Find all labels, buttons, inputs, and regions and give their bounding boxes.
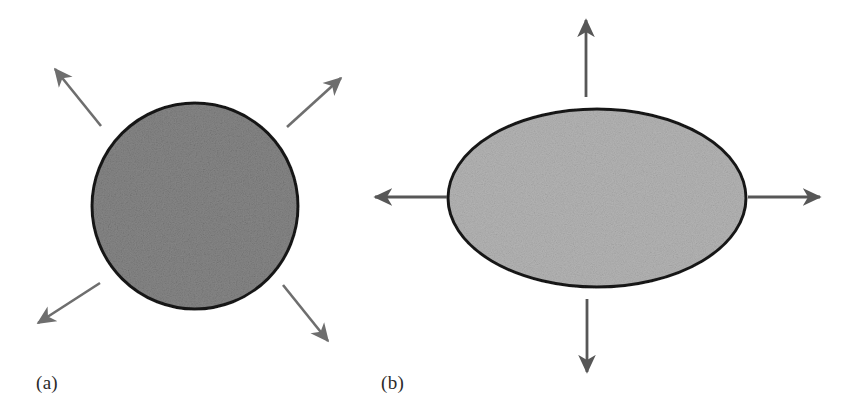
figure-canvas [0,0,852,418]
arrow-down-right-icon [283,285,328,341]
panel-b-group [375,20,820,372]
panel-a-group [38,69,341,341]
arrow-up-left-icon [55,69,101,126]
panel-b-label: (b) [381,372,404,394]
isotropic-grain-circle [92,103,298,309]
figure-container: (a) (b) [0,0,852,418]
arrow-down-left-icon [38,283,100,323]
panel-a-label: (a) [36,372,58,394]
anisotropic-grain-ellipse [448,109,746,287]
arrow-up-right-icon [287,78,341,127]
